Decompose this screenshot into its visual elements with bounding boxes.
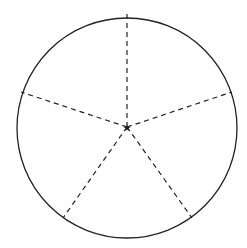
radius-lower-left: [63, 127, 127, 218]
sector-diagram: ★: [0, 0, 247, 248]
radius-upper-left: [21, 92, 127, 127]
radius-lower-right: [127, 127, 192, 218]
dashed-radii: [21, 13, 232, 218]
center-star-icon: ★: [123, 123, 131, 133]
radius-upper-right: [127, 92, 232, 127]
